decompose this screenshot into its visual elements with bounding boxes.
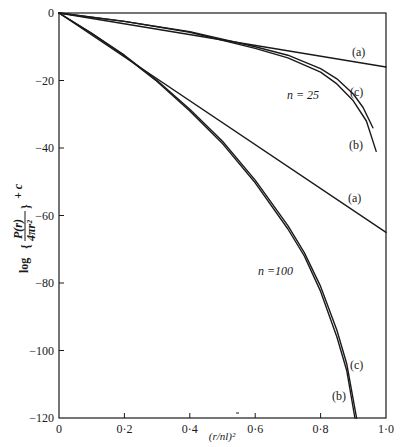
curve-n25-b [59, 13, 376, 151]
label-n100: n =100 [258, 264, 293, 278]
svg-text:+ c: + c [11, 183, 25, 199]
label-n100-a: (a) [348, 191, 361, 205]
x-tick-label: 0·8 [313, 422, 329, 436]
label-n25-b: (b) [349, 138, 363, 152]
y-axis-title: log { P(r) 4πr² } + c [11, 183, 38, 273]
chart: 0 0·2 0·4 0·6 0·8 1·0 0 −20 −40 −60 −80 … [0, 0, 401, 447]
label-n25-c: (c) [350, 85, 363, 99]
label-n100-c: (c) [350, 358, 363, 372]
svg-text:log: log [17, 258, 31, 273]
label-n25: n = 25 [287, 88, 319, 102]
svg-text:4πr²: 4πr² [24, 220, 38, 242]
y-tick-label: −40 [35, 141, 54, 155]
y-axis [59, 81, 64, 351]
y-tick-label: −20 [35, 74, 54, 88]
x-tick-label: 0 [56, 422, 62, 436]
curve-n25-c [59, 13, 373, 128]
x-tick-label: 0·2 [116, 422, 132, 436]
x-tick-label: 1·0 [378, 422, 394, 436]
curve-n100-a [59, 13, 386, 232]
y-tick-label: −80 [35, 276, 54, 290]
y-tick-label: 0 [48, 6, 54, 20]
svg-text:{: { [19, 244, 33, 249]
plot-frame [59, 13, 386, 418]
x-axis [124, 413, 320, 418]
x-tick-label: 0·6 [247, 422, 263, 436]
y-tick-label: −60 [35, 209, 54, 223]
svg-text:}: } [19, 204, 33, 209]
x-axis-title: (r/nl)² [209, 430, 236, 443]
curve-n100-c [59, 13, 357, 418]
y-tick-label: −100 [29, 344, 54, 358]
svg-text:P(r): P(r) [11, 219, 25, 239]
y-tick-label: −120 [29, 411, 54, 425]
x-tick-label: 0·4 [182, 422, 198, 436]
curve-n100-b [59, 13, 355, 418]
label-n25-a: (a) [352, 45, 365, 59]
label-n100-b: (b) [332, 389, 346, 403]
